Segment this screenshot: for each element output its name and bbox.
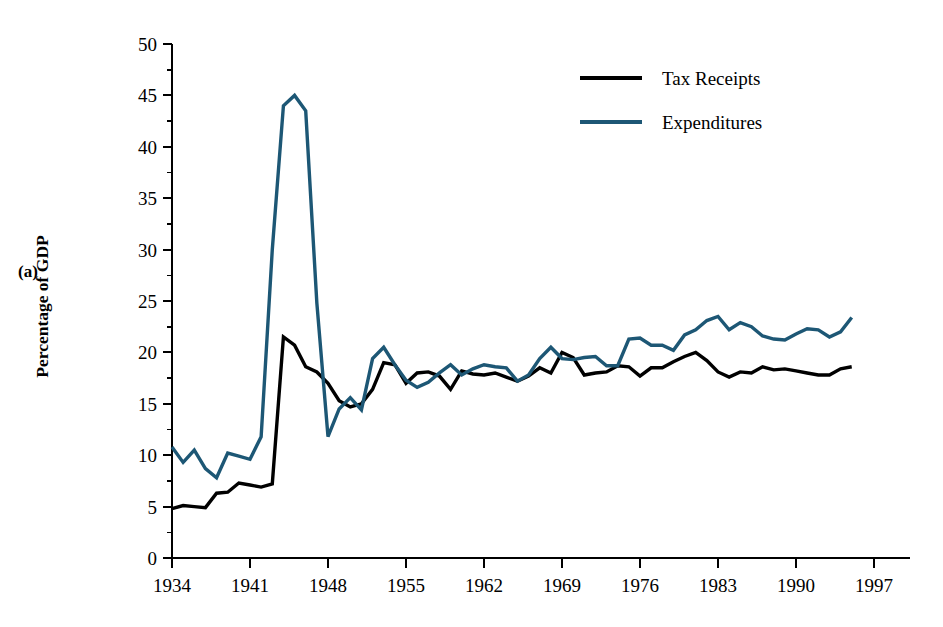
x-axis-tick-labels: 1934194119481955196219691976198319901997 bbox=[153, 575, 893, 596]
y-tick-label: 15 bbox=[138, 394, 157, 415]
figure-panel-a: (a) Percentage of GDP 051015202530354045… bbox=[0, 0, 943, 627]
y-tick-label: 0 bbox=[148, 548, 158, 569]
legend-label-expenditures: Expenditures bbox=[662, 112, 762, 133]
y-tick-label: 35 bbox=[138, 188, 157, 209]
x-tick-label: 1934 bbox=[153, 575, 192, 596]
y-tick-label: 40 bbox=[138, 137, 157, 158]
x-tick-label: 1962 bbox=[465, 575, 503, 596]
x-tick-label: 1976 bbox=[621, 575, 659, 596]
y-tick-label: 25 bbox=[138, 291, 157, 312]
line-chart: 05101520253035404550 1934194119481955196… bbox=[0, 0, 943, 627]
legend-label-tax-receipts: Tax Receipts bbox=[662, 68, 760, 89]
x-tick-label: 1983 bbox=[699, 575, 737, 596]
x-tick-label: 1955 bbox=[387, 575, 425, 596]
y-tick-label: 5 bbox=[148, 497, 158, 518]
y-tick-label: 30 bbox=[138, 240, 157, 261]
x-tick-label: 1941 bbox=[231, 575, 269, 596]
x-tick-label: 1948 bbox=[309, 575, 347, 596]
y-tick-label: 50 bbox=[138, 34, 157, 55]
axes bbox=[163, 44, 910, 568]
y-axis-tick-labels: 05101520253035404550 bbox=[138, 34, 157, 569]
x-tick-label: 1997 bbox=[855, 575, 893, 596]
series-line-tax-receipts bbox=[172, 337, 852, 509]
chart-legend: Tax ReceiptsExpenditures bbox=[580, 68, 762, 133]
series-line-expenditures bbox=[172, 95, 852, 477]
y-tick-label: 10 bbox=[138, 445, 157, 466]
x-tick-label: 1969 bbox=[543, 575, 581, 596]
y-tick-label: 20 bbox=[138, 342, 157, 363]
x-tick-label: 1990 bbox=[777, 575, 815, 596]
y-tick-label: 45 bbox=[138, 85, 157, 106]
data-series bbox=[172, 95, 852, 508]
